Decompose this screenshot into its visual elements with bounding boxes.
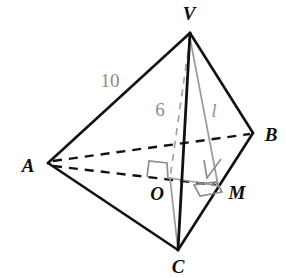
measure-label-altitude: 6	[155, 99, 165, 120]
edge-AC	[48, 163, 178, 250]
edge-AB	[53, 134, 250, 161]
vertex-labels-group: V A B C	[21, 3, 278, 277]
edge-VA	[48, 33, 190, 163]
geometry-figure: V A B C O M 10 6 l	[0, 0, 286, 278]
point-label-M: M	[228, 182, 247, 203]
vertex-label-A: A	[21, 155, 35, 176]
geometry-canvas: V A B C O M 10 6 l	[0, 0, 286, 278]
solid-edges-group	[48, 33, 253, 250]
vertex-label-B: B	[264, 124, 278, 145]
measure-label-slant-height: l	[211, 101, 216, 121]
vertex-label-V: V	[183, 3, 197, 24]
right-angle-at-M-vertical	[204, 159, 221, 178]
edge-VB	[190, 33, 253, 133]
vertex-label-C: C	[172, 256, 185, 277]
measure-labels-group: 10 6 l	[101, 70, 217, 121]
measure-label-lateral-edge: 10	[101, 70, 120, 91]
aux-line-OC	[170, 178, 178, 250]
point-label-O: O	[150, 183, 164, 204]
